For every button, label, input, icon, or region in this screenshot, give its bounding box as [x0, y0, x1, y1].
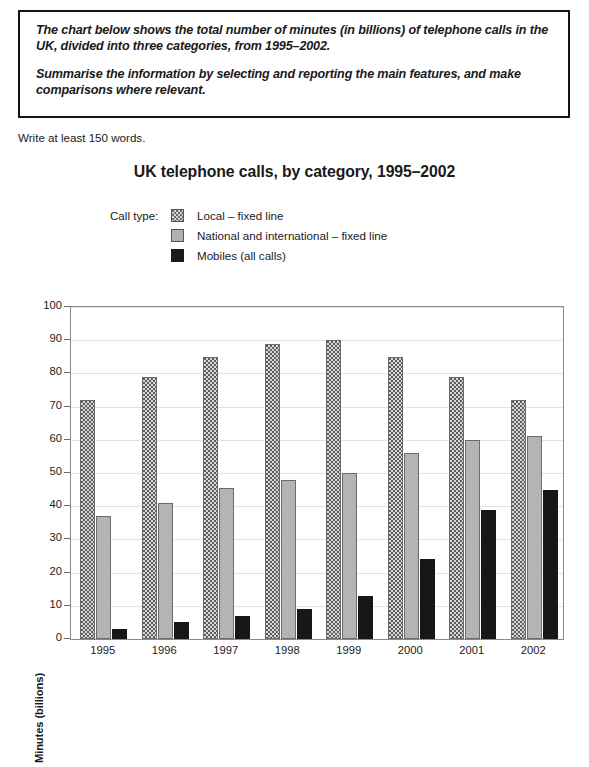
bar-local-1999 — [326, 340, 341, 639]
bar-local-1996 — [142, 377, 157, 639]
bar-local-2001 — [449, 377, 464, 639]
y-tick-label: 30 — [28, 532, 62, 543]
bar-group — [388, 307, 435, 639]
plot-area — [70, 306, 564, 640]
bar-local-1995 — [80, 400, 95, 639]
bar-mobiles-2002 — [543, 490, 558, 639]
bar-group — [511, 307, 558, 639]
bar-national-1999 — [342, 473, 357, 639]
legend-label-national: National and international – fixed line — [197, 229, 387, 242]
task-prompt-box: The chart below shows the total number o… — [18, 10, 570, 118]
bar-national-2001 — [465, 440, 480, 639]
bar-group — [80, 307, 127, 639]
bar-national-1995 — [96, 516, 111, 639]
y-tick-label: 20 — [28, 566, 62, 577]
bar-national-1996 — [158, 503, 173, 639]
bar-mobiles-1995 — [112, 629, 127, 639]
x-tick-label-1995: 1995 — [73, 644, 133, 656]
bar-local-2002 — [511, 400, 526, 639]
legend-item-mobiles: Mobiles (all calls) — [171, 247, 286, 263]
bar-mobiles-1996 — [174, 622, 189, 639]
task-prompt-paragraph-1: The chart below shows the total number o… — [36, 23, 552, 54]
legend-label-local: Local – fixed line — [197, 209, 283, 222]
y-tick-label: 70 — [28, 400, 62, 411]
chart-title: UK telephone calls, by category, 1995–20… — [0, 163, 589, 181]
bar-group — [326, 307, 373, 639]
x-tick-label-1999: 1999 — [319, 644, 379, 656]
y-tick-label: 60 — [28, 433, 62, 444]
legend-swatch-local-icon — [171, 209, 184, 222]
bar-mobiles-2001 — [481, 510, 496, 639]
bar-local-1998 — [265, 344, 280, 639]
bar-group — [265, 307, 312, 639]
x-tick-label-2000: 2000 — [380, 644, 440, 656]
x-tick-label-1996: 1996 — [134, 644, 194, 656]
task-prompt-text: The chart below shows the total number o… — [20, 12, 568, 98]
bar-mobiles-1998 — [297, 609, 312, 639]
chart-plot-wrapper: Minutes (billions) 010203040506070809010… — [0, 288, 589, 684]
bar-local-2000 — [388, 357, 403, 639]
bar-national-1998 — [281, 480, 296, 639]
bar-group — [203, 307, 250, 639]
legend-title: Call type: — [110, 209, 158, 222]
y-tick-label: 10 — [28, 599, 62, 610]
bar-local-1997 — [203, 357, 218, 639]
bar-national-1997 — [219, 488, 234, 639]
legend-swatch-mobiles-icon — [171, 249, 184, 262]
y-tick-label: 40 — [28, 499, 62, 510]
bar-group — [449, 307, 496, 639]
task-prompt-paragraph-2: Summarise the information by selecting a… — [36, 67, 552, 98]
legend-item-national: National and international – fixed line — [171, 227, 387, 243]
bar-mobiles-2000 — [420, 559, 435, 639]
legend-swatch-national-icon — [171, 229, 184, 242]
x-tick-label-2002: 2002 — [503, 644, 563, 656]
bar-mobiles-1997 — [235, 616, 250, 639]
y-tick-label: 100 — [28, 300, 62, 311]
y-tick-label: 50 — [28, 466, 62, 477]
x-tick-label-2001: 2001 — [442, 644, 502, 656]
y-axis-title: Minutes (billions) — [33, 638, 45, 767]
legend-item-local: Local – fixed line — [171, 207, 283, 223]
y-tick-label: 90 — [28, 333, 62, 344]
x-tick-label-1997: 1997 — [196, 644, 256, 656]
y-tick-label: 0 — [28, 632, 62, 643]
x-tick-label-1998: 1998 — [257, 644, 317, 656]
bar-group — [142, 307, 189, 639]
legend-label-mobiles: Mobiles (all calls) — [197, 249, 286, 262]
word-count-instruction: Write at least 150 words. — [18, 131, 145, 145]
bar-national-2000 — [404, 453, 419, 639]
y-tick-label: 80 — [28, 366, 62, 377]
bar-mobiles-1999 — [358, 596, 373, 639]
bar-national-2002 — [527, 436, 542, 639]
